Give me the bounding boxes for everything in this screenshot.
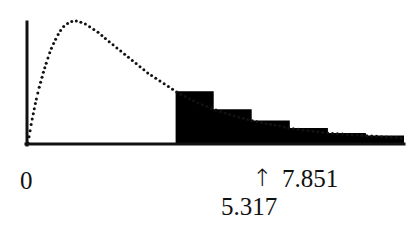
chi-square-figure: 0 ↑ 7.851 5.317 [0, 0, 410, 240]
axis-origin-label: 0 [20, 168, 33, 193]
plot-canvas [0, 0, 410, 240]
test-statistic-label: 5.317 [221, 194, 277, 219]
up-arrow-icon: ↑ [252, 166, 272, 190]
critical-value-label: 7.851 [282, 166, 338, 191]
rejection-region-fill [176, 91, 404, 143]
